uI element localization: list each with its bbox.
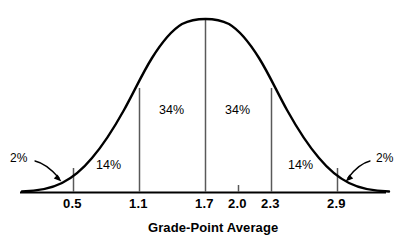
x-tick-label-2-9: 2.9 (327, 197, 346, 210)
right-callout-arrowhead (346, 175, 354, 182)
region-label-right-tail: 2% (376, 152, 393, 164)
right-callout-arrow (348, 161, 370, 178)
x-tick-label-0-5: 0.5 (63, 197, 82, 210)
x-tick-label-2-3: 2.3 (261, 197, 280, 210)
region-label-left-14: 14% (96, 159, 121, 172)
x-tick-label-1-7: 1.7 (195, 197, 214, 210)
region-label-mid-left-34: 34% (159, 104, 184, 117)
region-label-left-tail: 2% (10, 152, 27, 164)
x-tick-label-2-0: 2.0 (228, 197, 247, 210)
region-label-right-14: 14% (288, 159, 313, 172)
bell-curve-figure: 2% 14% 34% 34% 14% 2% 0.5 1.1 1.7 2.0 2.… (0, 0, 405, 248)
x-tick-label-1-1: 1.1 (129, 197, 148, 210)
left-callout-arrow (35, 161, 59, 178)
left-callout-arrowhead (54, 175, 62, 182)
x-axis-title: Grade-Point Average (148, 221, 278, 234)
region-label-mid-right-34: 34% (225, 104, 250, 117)
